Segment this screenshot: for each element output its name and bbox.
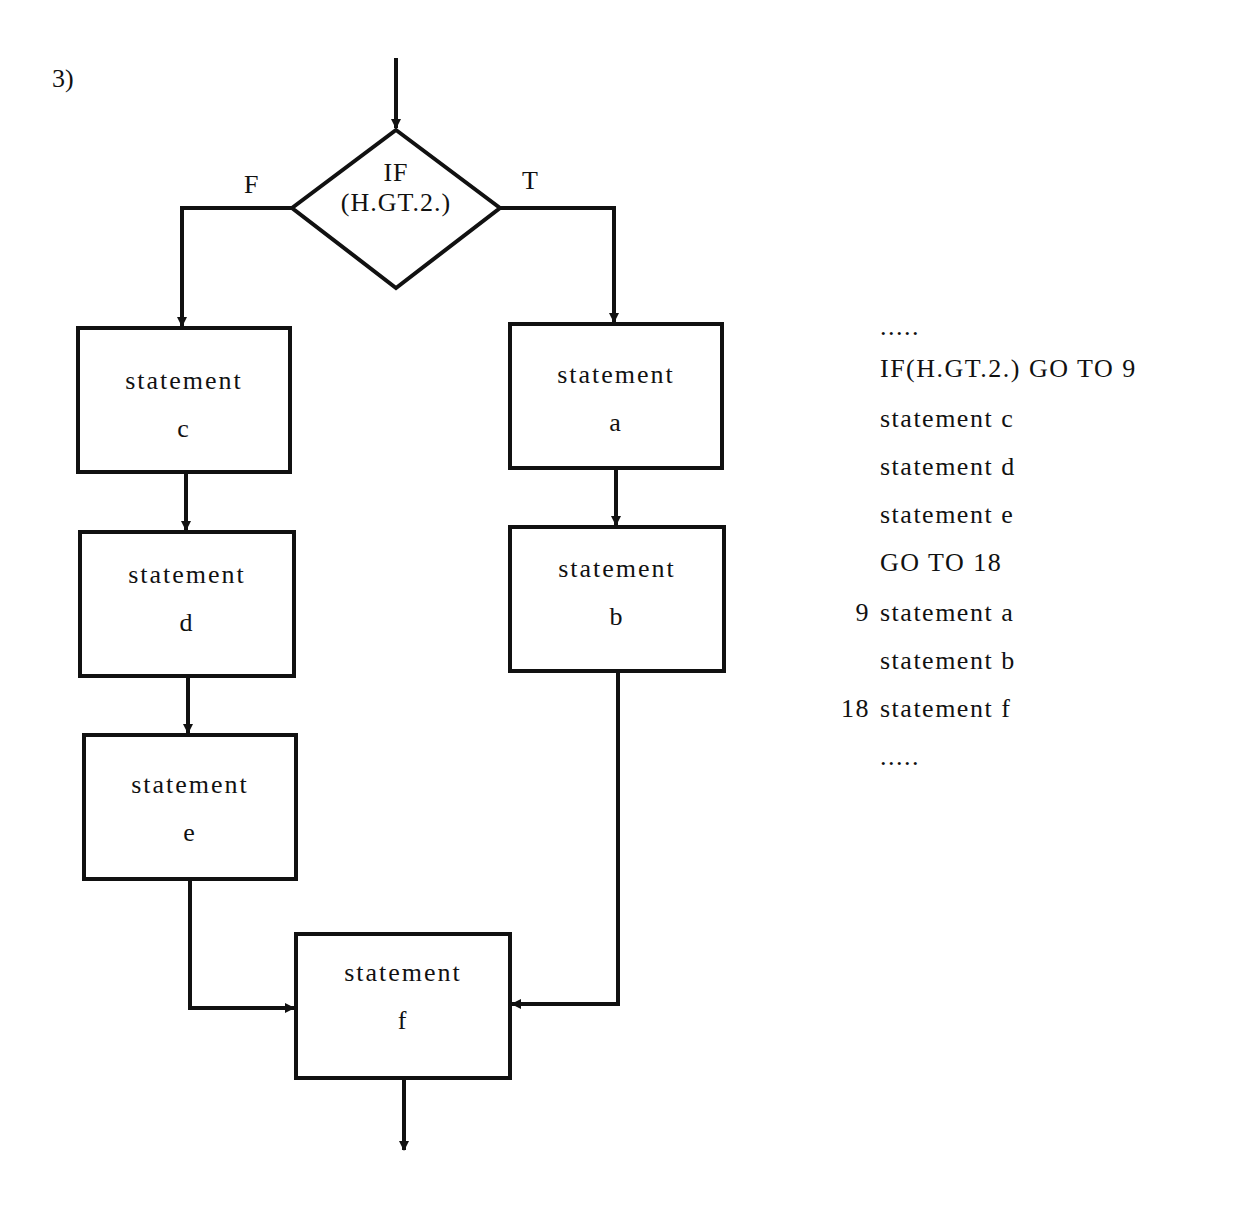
code-line: statement c (820, 404, 1014, 434)
figure-label: 3) (52, 66, 74, 92)
code-line: 18statement f (820, 694, 1011, 724)
code-line: statement d (820, 452, 1016, 482)
box-statement-d: statement d (80, 562, 294, 636)
box-statement-f: statement f (296, 960, 510, 1034)
true-branch-arrow (500, 208, 614, 322)
box-statement-e: statement e (84, 772, 296, 846)
false-label: F (244, 172, 258, 198)
box-statement-b: statement b (510, 556, 724, 630)
false-branch-arrow (182, 208, 292, 326)
code-line: ..... (820, 742, 920, 772)
box-statement-c: statement c (78, 368, 290, 442)
box-statement-a: statement a (510, 362, 722, 436)
code-line: statement e (820, 500, 1014, 530)
code-line: GO TO 18 (820, 548, 1002, 578)
decision-text: IF (H.GT.2.) (292, 160, 500, 216)
true-label: T (522, 168, 538, 194)
code-line: ..... (820, 312, 920, 342)
code-line: IF(H.GT.2.) GO TO 9 (820, 354, 1137, 384)
code-line: 9statement a (820, 598, 1014, 628)
code-line: statement b (820, 646, 1016, 676)
